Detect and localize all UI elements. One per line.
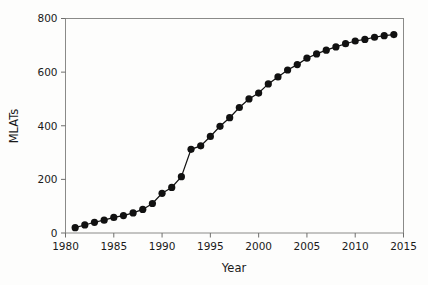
data-point <box>120 212 127 219</box>
data-point <box>274 73 281 80</box>
data-point <box>294 61 301 68</box>
data-point <box>130 209 137 216</box>
x-axis-title: Year <box>221 261 247 275</box>
x-tick-label: 1990 <box>149 240 176 252</box>
data-point <box>226 114 233 121</box>
data-point <box>207 133 214 140</box>
data-point <box>381 32 388 39</box>
y-axis-title: MLATs <box>7 109 21 144</box>
y-axis-tick-labels: 0200400600800 <box>37 12 57 239</box>
line-chart: 0200400600800 19801985199019952000200520… <box>0 0 428 285</box>
data-point <box>265 80 272 87</box>
y-tick-label: 800 <box>37 12 57 24</box>
data-point <box>110 214 117 221</box>
data-point <box>284 66 291 73</box>
x-tick-label: 2010 <box>342 240 369 252</box>
data-point <box>101 217 108 224</box>
data-point <box>245 95 252 102</box>
x-axis-tick-labels: 19801985199019952000200520102015 <box>52 240 417 252</box>
y-axis-ticks <box>61 19 66 234</box>
data-point <box>158 190 165 197</box>
data-point <box>390 31 397 38</box>
data-point <box>197 142 204 149</box>
data-point <box>81 221 88 228</box>
data-point <box>332 43 339 50</box>
y-tick-label: 0 <box>51 227 58 239</box>
data-point <box>352 37 359 44</box>
data-series-line <box>75 35 394 228</box>
x-tick-label: 1985 <box>100 240 127 252</box>
data-point <box>361 36 368 43</box>
data-point <box>72 224 79 231</box>
x-tick-label: 1995 <box>197 240 224 252</box>
x-tick-label: 2015 <box>390 240 417 252</box>
data-point <box>371 34 378 41</box>
plot-frame <box>66 19 404 234</box>
data-point <box>187 146 194 153</box>
x-tick-label: 2000 <box>245 240 272 252</box>
data-point <box>168 184 175 191</box>
data-point <box>149 200 156 207</box>
chart-figure: 0200400600800 19801985199019952000200520… <box>0 0 428 285</box>
y-tick-label: 200 <box>37 173 57 185</box>
data-point <box>178 173 185 180</box>
data-series-markers <box>72 31 398 231</box>
data-point <box>91 219 98 226</box>
data-point <box>216 123 223 130</box>
x-tick-label: 1980 <box>52 240 79 252</box>
x-axis-ticks <box>66 233 404 238</box>
data-point <box>323 47 330 54</box>
data-point <box>236 104 243 111</box>
y-tick-label: 600 <box>37 66 57 78</box>
x-tick-label: 2005 <box>294 240 321 252</box>
data-point <box>342 40 349 47</box>
data-point <box>255 89 262 96</box>
data-point <box>303 55 310 62</box>
data-point <box>313 50 320 57</box>
data-point <box>139 206 146 213</box>
y-tick-label: 400 <box>37 120 57 132</box>
